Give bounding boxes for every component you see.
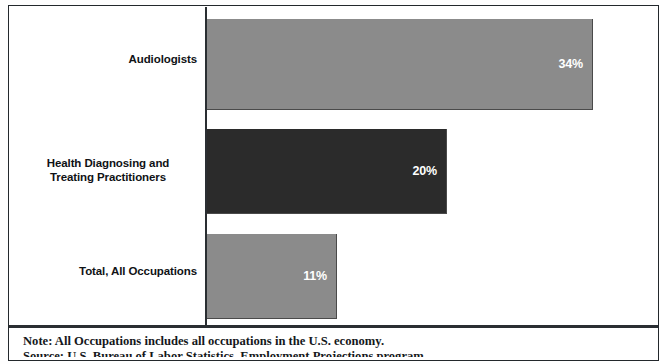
bar-value-label-audiologists: 34% (559, 57, 583, 71)
bar-category-label-total-all-occupations: Total, All Occupations (9, 264, 197, 278)
bar-category-label-audiologists: Audiologists (9, 52, 197, 66)
footnote-block: Note: All Occupations includes all occup… (23, 334, 650, 357)
bar-category-label-line1: Health Diagnosing and (15, 156, 201, 170)
footnote-note: Note: All Occupations includes all occup… (23, 334, 650, 349)
bar-value-label-health-diagnosing: 20% (413, 164, 437, 178)
footnote-source: Source: U.S. Bureau of Labor Statistics,… (23, 349, 650, 357)
bar-total-all-occupations: 11% (207, 234, 337, 319)
bar-value-label-total-all-occupations: 11% (303, 269, 327, 283)
footnote-divider (9, 326, 658, 328)
bar-category-label-health-diagnosing: Health Diagnosing and Treating Practitio… (15, 156, 201, 184)
bar-row-audiologists: Audiologists 34% (9, 19, 658, 110)
bar-audiologists: 34% (207, 19, 593, 110)
bar-health-diagnosing: 20% (207, 129, 447, 214)
bar-category-label-line2: Treating Practitioners (15, 170, 201, 184)
bar-row-health-diagnosing: Health Diagnosing and Treating Practitio… (9, 129, 658, 214)
plot-area: Audiologists 34% Health Diagnosing and T… (9, 6, 658, 326)
bar-row-total-all-occupations: Total, All Occupations 11% (9, 234, 658, 319)
figure-frame: Audiologists 34% Health Diagnosing and T… (8, 5, 659, 361)
